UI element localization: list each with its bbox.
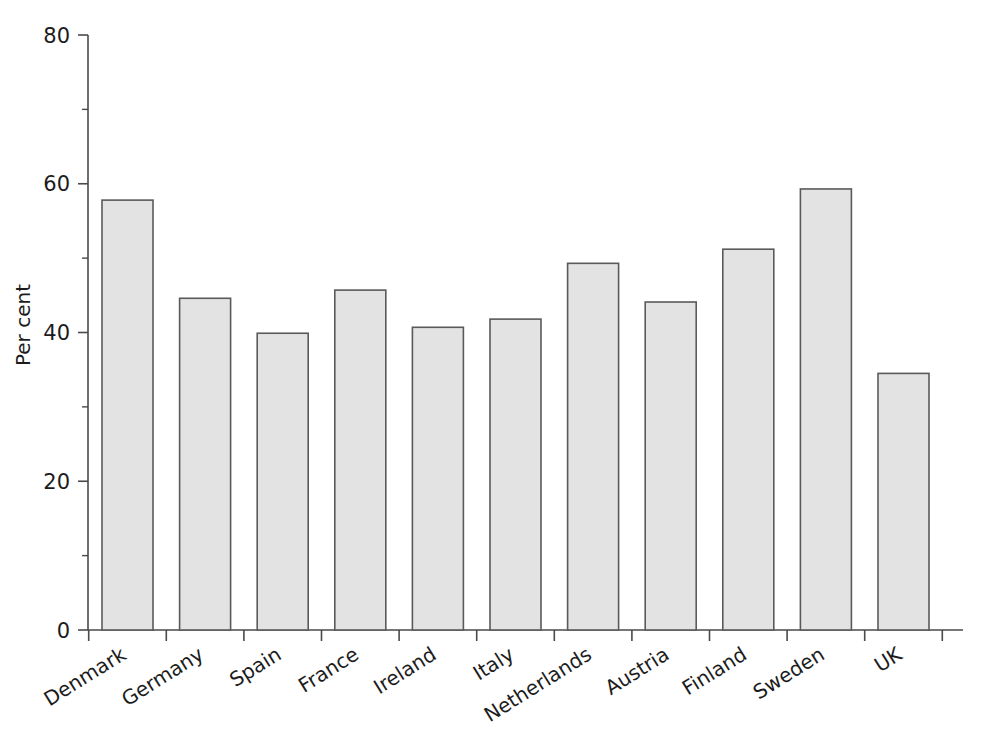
bar xyxy=(645,302,696,630)
x-category-label: Spain xyxy=(225,642,285,692)
x-category-label: Sweden xyxy=(749,642,829,704)
y-axis-title: Per cent xyxy=(11,284,35,366)
bar xyxy=(257,333,308,630)
bar xyxy=(568,263,619,630)
x-category-labels: DenmarkGermanySpainFranceIrelandItalyNet… xyxy=(39,641,906,726)
bar xyxy=(102,200,153,630)
x-axis xyxy=(88,630,963,641)
x-category-label: Denmark xyxy=(39,642,130,711)
bar xyxy=(800,189,851,630)
x-category-label: Germany xyxy=(117,642,208,711)
x-category-label: Ireland xyxy=(369,642,440,699)
bar xyxy=(180,298,231,630)
bar xyxy=(412,327,463,630)
chart-canvas: 020406080 DenmarkGermanySpainFranceIrela… xyxy=(0,0,990,748)
y-tick-label: 20 xyxy=(43,470,70,494)
y-tick-label: 40 xyxy=(43,321,70,345)
y-axis xyxy=(78,35,88,630)
y-tick-label: 0 xyxy=(57,619,70,643)
bar-chart-figure: 020406080 DenmarkGermanySpainFranceIrela… xyxy=(0,0,990,748)
y-tick-label: 60 xyxy=(43,172,70,196)
x-category-label: UK xyxy=(870,641,907,677)
x-category-label: France xyxy=(294,642,363,698)
bar xyxy=(490,319,541,630)
x-category-label: Italy xyxy=(469,642,519,685)
y-tick-labels: 020406080 xyxy=(43,24,70,643)
x-category-label: Austria xyxy=(601,642,674,700)
y-tick-label: 80 xyxy=(43,24,70,48)
bar xyxy=(335,290,386,630)
bar-series xyxy=(102,189,929,630)
x-category-label: Finland xyxy=(678,642,751,700)
bar xyxy=(878,373,929,630)
bar xyxy=(723,249,774,630)
